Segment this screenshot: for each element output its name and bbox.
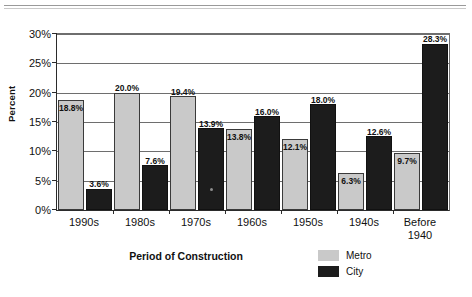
x-axis-tick-label: Before1940 <box>392 216 448 242</box>
x-axis-tick-label: 1960s <box>224 216 280 229</box>
x-axis-tick-label-line: 1940s <box>336 216 392 229</box>
category-separator <box>225 210 226 214</box>
chart-legend: MetroCity <box>318 248 372 280</box>
bar-value-label: 7.6% <box>145 157 164 166</box>
bar-metro-1990s[interactable]: 18.8% <box>58 100 84 210</box>
x-axis-tick-label-line: 1950s <box>280 216 336 229</box>
bar-group: 9.7%28.3% <box>393 34 449 210</box>
bar-city-1940s[interactable]: 12.6% <box>366 136 392 210</box>
bar-metro-1950s[interactable]: 12.1% <box>282 139 308 210</box>
y-axis-tick-label: 25% <box>29 57 51 69</box>
x-axis-tick-label: 1990s <box>56 216 112 229</box>
bar-value-label: 16.0% <box>255 108 279 117</box>
x-axis-tick-label-line: 1940 <box>392 229 448 242</box>
category-separator <box>393 210 394 214</box>
bar-value-label: 9.7% <box>397 157 416 166</box>
bar-metro-1960s[interactable]: 13.8% <box>226 129 252 210</box>
category-separator <box>113 210 114 214</box>
y-axis-tick-label: 15% <box>29 116 51 128</box>
y-axis-tick-label: 30% <box>29 28 51 40</box>
x-axis-tick-label-line: 1970s <box>168 216 224 229</box>
bar-city-1990s[interactable]: 3.6% <box>86 189 112 210</box>
bar-city-before-1940[interactable]: 28.3% <box>422 44 448 210</box>
legend-label: City <box>346 266 363 277</box>
bar-value-label: 6.3% <box>341 177 360 186</box>
x-axis-tick-label-line: 1960s <box>224 216 280 229</box>
bar-city-1980s[interactable]: 7.6% <box>142 165 168 210</box>
bar-metro-1980s[interactable]: 20.0% <box>114 93 140 210</box>
bar-city-1970s[interactable]: 13.9% <box>198 128 224 210</box>
bar-value-label: 18.8% <box>59 104 83 113</box>
bar-group: 18.8%3.6% <box>57 34 113 210</box>
grouped-bar-chart: Percent 30%25%20%15%10%5%0% 18.8%3.6%20.… <box>0 0 472 297</box>
bar-metro-1940s[interactable]: 6.3% <box>338 173 364 210</box>
legend-label: Metro <box>346 250 372 261</box>
y-axis-tick-label: 20% <box>29 87 51 99</box>
y-axis-tick-label: 10% <box>29 145 51 157</box>
legend-item[interactable]: Metro <box>318 248 372 262</box>
bar-group: 12.1%18.0% <box>281 34 337 210</box>
x-axis-tick-label-line: 1990s <box>56 216 112 229</box>
bar-group: 13.8%16.0% <box>225 34 281 210</box>
x-axis-tick-label: 1970s <box>168 216 224 229</box>
x-axis-tick-label-line: 1980s <box>112 216 168 229</box>
bar-group: 20.0%7.6% <box>113 34 169 210</box>
bar-value-label: 18.0% <box>311 96 335 105</box>
plot-area: 30%25%20%15%10%5%0% 18.8%3.6%20.0%7.6%19… <box>56 33 450 211</box>
x-axis-tick-label: 1950s <box>280 216 336 229</box>
bar-group: 6.3%12.6% <box>337 34 393 210</box>
bar-city-1960s[interactable]: 16.0% <box>254 116 280 210</box>
bar-value-label: 13.9% <box>199 120 223 129</box>
bar-metro-1970s[interactable]: 19.4% <box>170 96 196 210</box>
bar-value-label: 20.0% <box>115 84 139 93</box>
bar-metro-before-1940[interactable]: 9.7% <box>394 153 420 210</box>
bar-value-label: 19.4% <box>171 88 195 97</box>
bar-value-label: 12.6% <box>367 128 391 137</box>
category-separator <box>281 210 282 214</box>
legend-item[interactable]: City <box>318 264 372 278</box>
bar-value-label: 13.8% <box>227 133 251 142</box>
chart-page: Percent 30%25%20%15%10%5%0% 18.8%3.6%20.… <box>0 0 472 297</box>
bar-value-label: 12.1% <box>283 143 307 152</box>
bar-value-label: 28.3% <box>423 35 447 44</box>
category-separator <box>169 210 170 214</box>
legend-swatch-city <box>318 266 339 277</box>
bar-group: 19.4%13.9% <box>169 34 225 210</box>
y-axis-title: Percent <box>6 86 17 122</box>
y-axis-tick-label: 5% <box>35 175 51 187</box>
x-axis-title: Period of Construction <box>86 250 286 262</box>
x-axis-tick-label-line: Before <box>392 216 448 229</box>
category-separator <box>337 210 338 214</box>
bar-value-label: 3.6% <box>89 180 108 189</box>
x-axis-tick-label: 1980s <box>112 216 168 229</box>
y-axis-tick-label: 0% <box>35 204 51 216</box>
x-axis-tick-label: 1940s <box>336 216 392 229</box>
legend-swatch-metro <box>318 250 339 261</box>
bar-city-1950s[interactable]: 18.0% <box>310 104 336 210</box>
